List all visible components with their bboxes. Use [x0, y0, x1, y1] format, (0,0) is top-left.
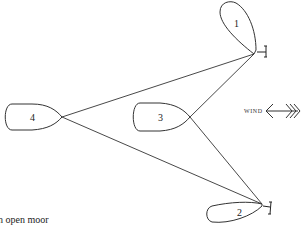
- wind-label: WIND: [244, 108, 263, 114]
- line-3-to-2: [190, 117, 262, 204]
- anchor-icon: [257, 46, 267, 57]
- caption: n open moor: [0, 214, 49, 225]
- anchor-icon: [263, 202, 272, 214]
- boat-4: 4: [5, 104, 62, 130]
- svg-text:2: 2: [237, 207, 242, 218]
- svg-text:4: 4: [30, 112, 35, 123]
- boat-1: 1: [220, 2, 256, 54]
- boat-2: 2: [207, 202, 262, 222]
- mooring-diagram: 1 2 3 4 WIND: [0, 0, 303, 226]
- boat-3: 3: [133, 103, 190, 131]
- svg-text:1: 1: [234, 18, 239, 29]
- wind-arrow-icon: [266, 104, 300, 118]
- svg-text:3: 3: [158, 112, 163, 123]
